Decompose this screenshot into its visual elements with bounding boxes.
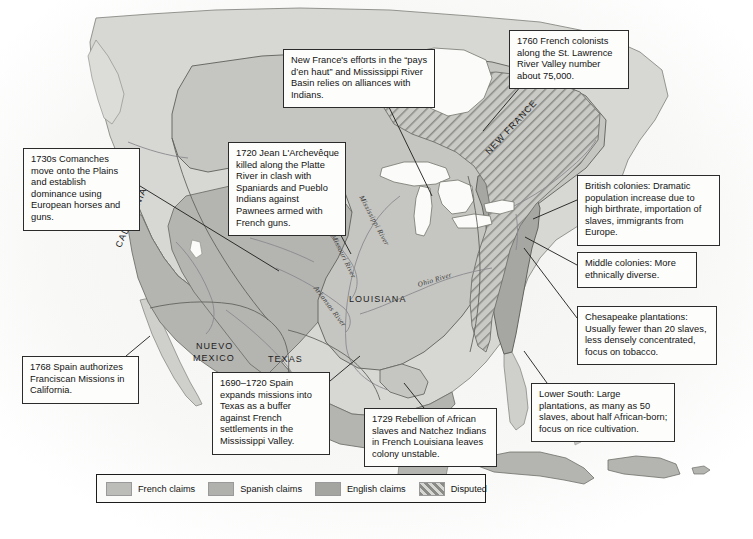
legend-label: Spanish claims <box>240 484 302 494</box>
callout-text: 1690–1720 Spain expands missions into Te… <box>220 378 323 448</box>
callout-text: 1720 Jean L'Archevêque killed along the … <box>236 148 339 229</box>
legend-label: English claims <box>347 484 406 494</box>
region-label-texas: TEXAS <box>268 354 303 364</box>
legend-label: Disputed <box>451 484 487 494</box>
callout-chesapeake: Chesapeake plantations: Usually fewer th… <box>577 306 717 365</box>
callout-text: Chesapeake plantations: Usually fewer th… <box>585 312 710 358</box>
legend-swatch-spanish-claims <box>208 482 234 496</box>
callout-text: New France's efforts in the “pays d’en h… <box>291 55 428 101</box>
callout-larcheveque: 1720 Jean L'Archevêque killed along the … <box>228 142 346 236</box>
legend-entry-disputed: Disputed <box>419 482 487 496</box>
callout-french-colonists-1760: 1760 French colonists along the St. Lawr… <box>509 30 629 89</box>
legend-swatch-disputed <box>419 482 445 496</box>
callout-middle-colonies: Middle colonies: More ethnically diverse… <box>577 252 697 288</box>
callout-natchez-rebellion: 1729 Rebellion of African slaves and Nat… <box>364 408 497 467</box>
region-label-louisiana: LOUISIANA <box>349 294 406 304</box>
callout-new-france-efforts: New France's efforts in the “pays d’en h… <box>283 49 435 108</box>
region-label-nuevo-mexico: NUEVO <box>196 341 233 351</box>
callout-british-colonies: British colonies: Dramatic population in… <box>577 175 720 246</box>
callout-text: 1768 Spain authorizes Franciscan Mission… <box>30 362 132 397</box>
legend-swatch-english-claims <box>315 482 341 496</box>
region-label-nuevo-mexico-2: MEXICO <box>193 353 235 363</box>
legend-swatch-french-claims <box>106 482 132 496</box>
callout-texas-missions: 1690–1720 Spain expands missions into Te… <box>212 372 330 455</box>
callout-text: 1729 Rebellion of African slaves and Nat… <box>372 414 490 460</box>
callout-text: 1760 French colonists along the St. Lawr… <box>517 36 622 82</box>
legend-label: French claims <box>138 484 195 494</box>
callout-text: Middle colonies: More ethnically diverse… <box>585 258 690 281</box>
callout-lower-south: Lower South: Large plantations, as many … <box>531 383 675 442</box>
legend-entry-spanish-claims: Spanish claims <box>208 482 302 496</box>
callout-text: Lower South: Large plantations, as many … <box>539 389 668 435</box>
callout-text: 1730s Comanches move onto the Plains and… <box>31 154 133 224</box>
callout-comanches: 1730s Comanches move onto the Plains and… <box>23 148 140 231</box>
legend-entry-english-claims: English claims <box>315 482 406 496</box>
callout-text: British colonies: Dramatic population in… <box>585 181 713 239</box>
historical-map: CALIFORNIANUEVOMEXICOTEXASLOUISIANANEW F… <box>0 0 753 539</box>
map-legend: French claimsSpanish claimsEnglish claim… <box>96 474 486 503</box>
legend-entry-french-claims: French claims <box>106 482 195 496</box>
callout-franciscan-missions: 1768 Spain authorizes Franciscan Mission… <box>22 356 139 404</box>
